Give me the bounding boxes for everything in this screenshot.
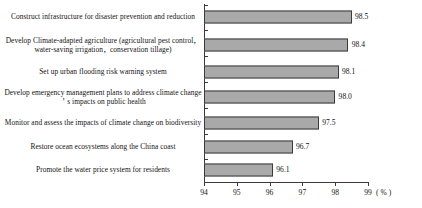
bar [204,11,352,24]
bar [204,117,319,130]
x-axis-tick [204,182,205,186]
bar-value-label: 98.4 [352,41,365,49]
x-axis-tick [302,182,303,186]
bar-value-label: 96.1 [276,166,289,174]
x-axis-tick [335,182,336,186]
bar-value-label: 96.7 [296,143,309,151]
bar-value-label: 98.1 [342,68,355,76]
x-axis-tick-label: 97 [299,188,307,197]
category-label: Set up urban flooding risk warning syste… [4,67,202,76]
category-label: Monitor and assess the impacts of climat… [4,118,202,127]
x-axis-tick-label: 95 [233,188,241,197]
horizontal-bar-chart: Construct infrastructure for disaster pr… [0,0,422,208]
x-axis-tick-label: 98 [331,188,339,197]
category-label: Construct infrastructure for disaster pr… [4,12,202,21]
x-axis-unit-label: ( % ) [376,188,391,197]
x-axis-tick-label: 94 [200,188,208,197]
bar [204,164,273,177]
category-label: Develop Climate-adapted agriculture (agr… [4,36,202,54]
bar-value-label: 97.5 [322,119,335,127]
x-axis-tick [368,182,369,186]
plot-area: 98.5 98.4 98.1 98.0 97.5 96.7 96.1 [204,0,368,182]
bar [204,141,293,154]
category-label: Promote the water price system for resid… [4,165,202,174]
category-label: Develop emergency management plans to ad… [4,88,202,106]
category-label-column: Construct infrastructure for disaster pr… [0,0,202,182]
bar [204,91,335,104]
x-axis-tick [237,182,238,186]
bar-value-label: 98.5 [355,13,368,21]
x-axis-line [204,182,368,183]
x-axis-tick-label: 99 [364,188,372,197]
bar [204,66,339,79]
category-label: Restore ocean ecosystems along the China… [4,142,202,151]
x-axis-tick [270,182,271,186]
bar-value-label: 98.0 [339,93,352,101]
bar [204,39,348,52]
x-axis-tick-label: 96 [266,188,274,197]
